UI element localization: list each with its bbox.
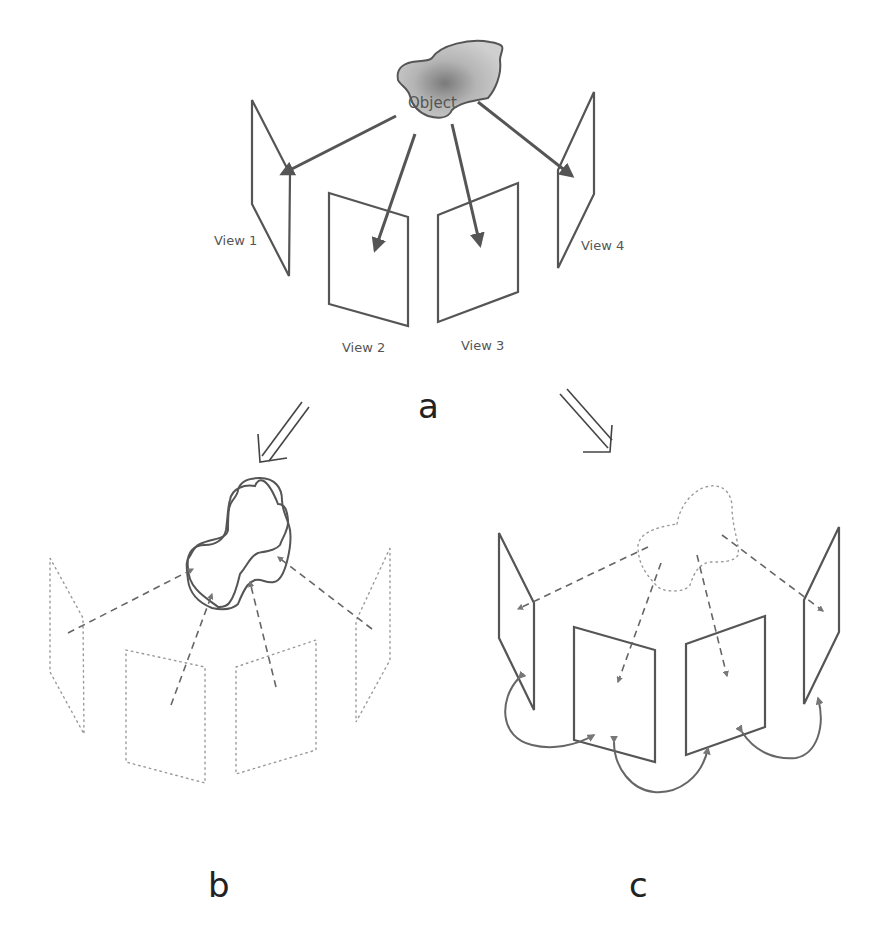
view-1-plane-c	[499, 533, 534, 710]
link-view3-view4	[742, 698, 821, 758]
view-1-plane-dotted	[50, 558, 84, 734]
diagram-canvas: Object View 1 View 2 View 3 View 4 a	[0, 0, 882, 932]
panel-b: b	[50, 478, 390, 905]
view-3-plane	[438, 183, 518, 322]
view-2-plane	[329, 193, 408, 326]
object-label: Object	[408, 94, 457, 112]
view-1-label: View 1	[214, 233, 257, 248]
ray-view-3	[452, 124, 480, 245]
backray-view-1	[68, 569, 193, 633]
link-view1-view2	[505, 678, 594, 747]
ray-view-1	[282, 116, 396, 174]
ray-c-view-3	[697, 555, 727, 676]
backray-view-2	[171, 594, 212, 705]
view-2-plane-dotted	[126, 650, 205, 783]
object-outline-c-dotted	[638, 486, 738, 591]
view-1-plane	[252, 100, 290, 276]
view-3-label: View 3	[461, 338, 504, 353]
arrow-to-c	[560, 389, 612, 452]
arrow-to-b	[258, 402, 309, 462]
panel-b-label: b	[208, 865, 230, 905]
view-3-plane-c	[686, 616, 765, 755]
ray-c-view-1	[518, 547, 648, 609]
ray-c-view-4	[722, 535, 823, 611]
panel-a-label: a	[418, 386, 439, 426]
link-view2-view3	[614, 742, 708, 792]
backray-view-3	[250, 582, 276, 687]
view-4-plane-c	[804, 527, 839, 704]
view-2-label: View 2	[342, 340, 385, 355]
panel-c-label: c	[629, 865, 648, 905]
backray-view-4	[278, 557, 372, 629]
panel-c: c	[499, 486, 839, 905]
view-3-plane-dotted	[236, 640, 316, 774]
view-4-plane-dotted	[356, 548, 390, 722]
panel-a: Object View 1 View 2 View 3 View 4 a	[214, 41, 624, 426]
view-2-plane-c	[574, 627, 655, 762]
ray-view-4	[478, 102, 572, 176]
view-4-label: View 4	[581, 238, 624, 253]
